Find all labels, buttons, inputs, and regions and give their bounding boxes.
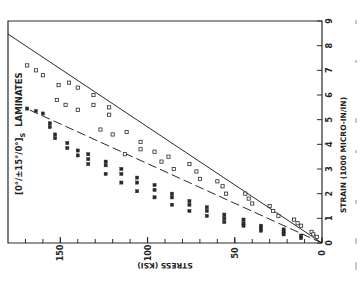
filled-data-point bbox=[26, 107, 29, 110]
open-data-point bbox=[123, 153, 126, 156]
strain-tick-label: 3 bbox=[325, 166, 334, 172]
filled-data-point bbox=[299, 236, 302, 239]
filled-data-point bbox=[54, 133, 57, 136]
svg-text:[0°/±15°/0°]SLAMINATES: [0°/±15°/0°]SLAMINATES bbox=[14, 72, 27, 195]
open-data-point bbox=[315, 235, 318, 238]
open-data-point bbox=[216, 180, 219, 183]
filled-data-point bbox=[66, 146, 69, 149]
open-data-point bbox=[64, 103, 67, 106]
filled-data-point bbox=[170, 203, 173, 206]
open-data-point bbox=[55, 98, 58, 101]
strain-tick-label: 1 bbox=[325, 215, 334, 221]
filled-data-point bbox=[223, 213, 226, 216]
filled-data-point bbox=[242, 224, 245, 227]
strain-tick-label: 4 bbox=[325, 141, 334, 147]
open-data-point bbox=[251, 202, 254, 205]
filled-data-point bbox=[41, 112, 44, 115]
filled-data-point bbox=[242, 218, 245, 221]
filled-data-point bbox=[104, 172, 107, 175]
stress-axis-ticks: 050100150 bbox=[25, 237, 327, 261]
filled-data-point bbox=[170, 196, 173, 199]
open-data-point bbox=[277, 214, 280, 217]
open-data-point bbox=[92, 93, 95, 96]
open-data-point bbox=[108, 113, 111, 116]
filled-data-point bbox=[205, 206, 208, 209]
open-data-point bbox=[188, 162, 191, 165]
open-data-point bbox=[312, 233, 315, 236]
chart-title: [0°/±15°/0°]SLAMINATES bbox=[14, 72, 27, 195]
filled-data-point bbox=[153, 196, 156, 199]
open-data-point bbox=[92, 103, 95, 106]
open-data-point bbox=[244, 192, 247, 195]
filled-data-point bbox=[282, 233, 285, 236]
strain-tick-label: 0 bbox=[325, 240, 334, 246]
open-data-point bbox=[299, 224, 302, 227]
open-data-point bbox=[26, 64, 29, 67]
filled-data-point bbox=[188, 209, 191, 212]
title-main: [0°/±15°/0°] bbox=[14, 137, 24, 195]
filled-data-point bbox=[120, 172, 123, 175]
open-data-point bbox=[111, 133, 114, 136]
filled-data-point bbox=[87, 158, 90, 161]
filled-data-point bbox=[259, 229, 262, 232]
filled-data-point bbox=[223, 217, 226, 220]
open-data-point bbox=[195, 170, 198, 173]
filled-data-point bbox=[34, 109, 37, 112]
filled-data-point bbox=[188, 203, 191, 206]
open-data-point bbox=[139, 148, 142, 151]
filled-data-point bbox=[153, 183, 156, 186]
title-suffix: LAMINATES bbox=[14, 72, 24, 126]
filled-data-point bbox=[205, 214, 208, 217]
open-data-point bbox=[76, 86, 79, 89]
filled-data-point bbox=[120, 181, 123, 184]
cropped-caption-fragment bbox=[353, 0, 359, 284]
dashed-fit-line bbox=[25, 108, 322, 243]
strain-tick-label: 6 bbox=[325, 92, 334, 98]
open-data-point bbox=[153, 150, 156, 153]
filled-data-point bbox=[135, 190, 138, 193]
filled-data-point bbox=[120, 167, 123, 170]
filled-data-point bbox=[104, 164, 107, 167]
open-data-point bbox=[139, 140, 142, 143]
strain-tick-label: 5 bbox=[325, 116, 334, 122]
open-data-point bbox=[99, 128, 102, 131]
filled-data-point bbox=[76, 149, 79, 152]
stress-axis-label: STRESS (KSI) bbox=[137, 261, 192, 270]
filled-data-point bbox=[205, 209, 208, 212]
open-data-point bbox=[160, 160, 163, 163]
filled-data-point bbox=[170, 192, 173, 195]
open-data-point bbox=[268, 204, 271, 207]
strain-axis-label: STRAIN (1000 MICRO-IN/IN) bbox=[339, 97, 348, 213]
filled-data-point bbox=[135, 181, 138, 184]
open-data-point bbox=[221, 185, 224, 188]
filled-data-point bbox=[87, 162, 90, 165]
filled-data-point bbox=[104, 160, 107, 163]
filled-data-point bbox=[66, 142, 69, 145]
stress-tick-label: 0 bbox=[318, 250, 327, 256]
data-points bbox=[26, 64, 319, 240]
title-subscript: S bbox=[19, 132, 27, 137]
strain-tick-label: 2 bbox=[325, 191, 334, 197]
open-data-point bbox=[224, 192, 227, 195]
strain-axis-ticks: 0123456789 bbox=[317, 18, 334, 246]
open-data-point bbox=[167, 155, 170, 158]
open-data-point bbox=[296, 222, 299, 225]
filled-data-point bbox=[54, 137, 57, 140]
open-data-point bbox=[125, 130, 128, 133]
open-data-point bbox=[198, 177, 201, 180]
open-data-point bbox=[76, 108, 79, 111]
open-data-point bbox=[272, 209, 275, 212]
stress-tick-label: 50 bbox=[231, 247, 240, 259]
strain-tick-label: 9 bbox=[325, 18, 334, 24]
filled-data-point bbox=[48, 122, 51, 125]
filled-data-point bbox=[87, 153, 90, 156]
open-data-point bbox=[34, 69, 37, 72]
stress-strain-chart: 050100150 0123456789 [0°/±15°/0°]SLAMINA… bbox=[0, 0, 360, 284]
strain-tick-label: 8 bbox=[325, 42, 334, 48]
open-data-point bbox=[57, 84, 60, 87]
stress-tick-label: 150 bbox=[56, 244, 65, 261]
filled-data-point bbox=[135, 176, 138, 179]
filled-data-point bbox=[76, 154, 79, 157]
stress-tick-label: 100 bbox=[144, 244, 153, 261]
filled-data-point bbox=[48, 125, 51, 128]
